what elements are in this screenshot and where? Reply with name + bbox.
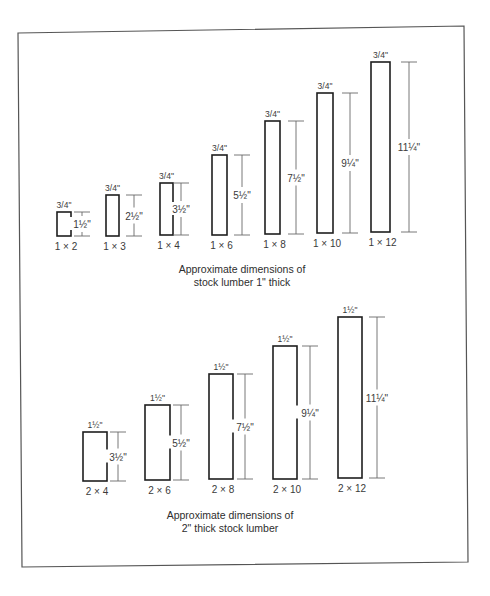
sections: 1½"3/4"1 × 22½"3/4"1 × 33½"3/4"1 × 45½"3…: [55, 50, 423, 534]
height-label: 7½": [236, 422, 254, 433]
nominal-size-label: 2 × 10: [273, 484, 302, 495]
width-label: 3/4": [212, 143, 227, 153]
width-label: 3/4": [265, 109, 280, 119]
board-28: 7½"1½"2 × 8: [209, 362, 259, 495]
nominal-size-label: 1 × 6: [210, 240, 233, 251]
width-label: 1½": [278, 334, 293, 344]
height-label: 11¼": [398, 142, 421, 153]
height-label: 3½": [172, 204, 190, 215]
nominal-size-label: 1 × 10: [313, 238, 342, 249]
board-18: 7½"3/4"1 × 8: [263, 109, 310, 250]
caption-line-2: stock lumber 1" thick: [194, 276, 291, 288]
lumber-dimensions-diagram: 1½"3/4"1 × 22½"3/4"1 × 33½"3/4"1 × 45½"3…: [0, 0, 490, 596]
nominal-size-label: 2 × 8: [212, 484, 235, 495]
height-label: 5½": [172, 438, 190, 449]
nominal-size-label: 1 × 3: [103, 241, 126, 252]
board-cross-section: [209, 374, 233, 479]
caption-line-1: Approximate dimensions of: [179, 263, 306, 275]
board-cross-section: [317, 93, 333, 233]
width-label: 3/4": [159, 171, 174, 181]
board-13: 2½"3/4"1 × 3: [103, 183, 148, 252]
board-110: 9¼"3/4"1 × 10: [313, 81, 364, 249]
board-26: 5½"1½"2 × 6: [145, 393, 195, 496]
width-label: 3/4": [57, 200, 72, 210]
board-24: 3½"1½"2 × 4: [83, 420, 132, 497]
width-label: 1½": [343, 305, 358, 315]
board-112: 11¼"3/4"1 × 12: [368, 50, 423, 248]
board-cross-section: [371, 62, 390, 232]
nominal-size-label: 1 × 12: [368, 237, 397, 248]
board-12: 1½"3/4"1 × 2: [55, 200, 96, 252]
nominal-size-label: 2 × 4: [86, 486, 109, 497]
height-label: 9¼": [341, 158, 359, 169]
width-label: 3/4": [105, 183, 120, 193]
board-14: 3½"3/4"1 × 4: [157, 171, 195, 251]
board-cross-section: [83, 432, 107, 481]
caption-line-2: 2" thick stock lumber: [182, 522, 279, 534]
board-cross-section: [145, 405, 170, 480]
caption-line-1: Approximate dimensions of: [167, 509, 294, 521]
width-label: 1½": [150, 393, 165, 403]
board-cross-section: [338, 317, 362, 478]
board-212: 11¼"1½"2 × 12: [338, 305, 391, 494]
height-label: 1½": [73, 219, 91, 230]
width-label: 1½": [88, 420, 103, 430]
width-label: 3/4": [373, 50, 388, 60]
nominal-size-label: 1 × 4: [157, 240, 180, 251]
nominal-size-label: 2 × 12: [338, 483, 367, 494]
board-cross-section: [265, 121, 280, 234]
nominal-size-label: 1 × 2: [55, 241, 78, 252]
height-label: 5½": [233, 190, 251, 201]
board-210: 9¼"1½"2 × 10: [273, 334, 324, 495]
section-two-inch: 3½"1½"2 × 45½"1½"2 × 67½"1½"2 × 89¼"1½"2…: [83, 305, 391, 534]
height-label: 3½": [109, 452, 127, 463]
height-label: 7½": [287, 173, 305, 184]
width-label: 3/4": [318, 81, 333, 91]
board-cross-section: [273, 346, 297, 479]
height-label: 11¼": [366, 393, 389, 404]
board-16: 5½"3/4"1 × 6: [210, 143, 256, 251]
nominal-size-label: 2 × 6: [148, 485, 171, 496]
board-cross-section: [212, 155, 227, 235]
nominal-size-label: 1 × 8: [263, 239, 286, 250]
height-label: 2½": [125, 211, 143, 222]
board-cross-section: [106, 195, 119, 236]
height-label: 9¼": [301, 408, 319, 419]
section-one-inch: 1½"3/4"1 × 22½"3/4"1 × 33½"3/4"1 × 45½"3…: [55, 50, 423, 288]
width-label: 1½": [214, 362, 229, 372]
